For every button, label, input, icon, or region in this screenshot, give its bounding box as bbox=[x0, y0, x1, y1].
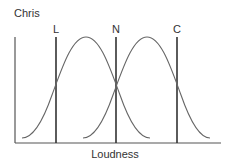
marker-label-n: N bbox=[112, 23, 120, 35]
diagram-canvas: Chris L N C Loudness bbox=[0, 0, 229, 162]
x-axis-label: Loudness bbox=[91, 148, 139, 160]
marker-label-l: L bbox=[53, 23, 59, 35]
diagram-title: Chris bbox=[14, 7, 40, 19]
marker-label-c: C bbox=[173, 23, 181, 35]
